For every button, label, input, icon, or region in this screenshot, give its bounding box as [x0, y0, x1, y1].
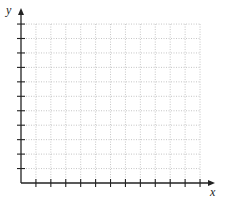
y-axis-arrow-icon	[18, 8, 24, 15]
plot-area	[0, 0, 228, 203]
y-axis-label: y	[6, 4, 11, 16]
x-axis-label: x	[210, 186, 215, 198]
blank-coordinate-grid: y x	[0, 0, 228, 203]
